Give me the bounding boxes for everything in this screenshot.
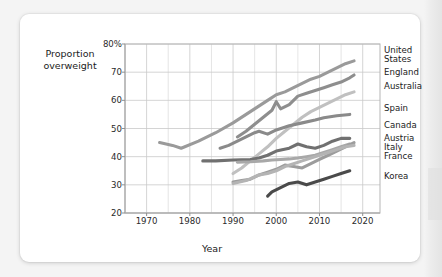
legend-label-australia: Australia xyxy=(384,82,422,91)
legend-label-line1: Canada xyxy=(384,120,417,130)
legend-label-line1: France xyxy=(384,151,413,161)
legend-label-line1: Korea xyxy=(384,171,408,181)
legend-label-england: England xyxy=(384,68,419,77)
legend-label-spain: Spain xyxy=(384,104,408,113)
legend-label-korea: Korea xyxy=(384,172,408,181)
plot-area xyxy=(0,0,442,277)
legend-label-france: France xyxy=(384,152,413,161)
legend-label-line2: States xyxy=(384,54,411,64)
chart-figure: Proportionoverweight 80% 70 60 50 40 30 … xyxy=(0,0,442,277)
legend-label-united-states: UnitedStates xyxy=(384,46,412,65)
legend-label-line1: England xyxy=(384,67,419,77)
legend-label-line1: Australia xyxy=(384,81,422,91)
legend-label-line1: Spain xyxy=(384,103,408,113)
legend-label-canada: Canada xyxy=(384,121,417,130)
grid-lines xyxy=(122,44,380,216)
